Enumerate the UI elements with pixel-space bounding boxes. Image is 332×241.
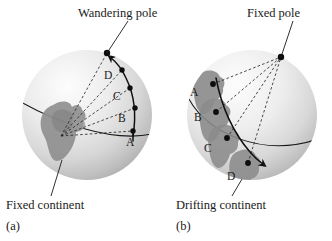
polar-wander-figure: A B C D Wandering pole Fixed continent (… <box>0 0 332 241</box>
point-label-b-C: C <box>204 142 212 154</box>
point-label-a-A: A <box>126 136 135 148</box>
panel-b-caption: (b) <box>176 219 191 233</box>
wandering-pole-label: Wandering pole <box>78 6 158 20</box>
panel-a: A B C D Wandering pole Fixed continent (… <box>6 6 158 233</box>
dot-a <box>130 128 135 133</box>
fixed-pole-leader <box>281 21 293 57</box>
point-label-a-C: C <box>113 90 121 102</box>
point-label-a-B: B <box>118 112 126 124</box>
point-label-b-D: D <box>227 170 235 182</box>
dot-c <box>127 85 132 90</box>
fixed-continent-label: Fixed continent <box>6 198 85 212</box>
panel-b: A B C D Fixed pole Drifting continent (b… <box>176 6 318 233</box>
point-label-b-A: A <box>190 86 199 98</box>
point-label-a-D: D <box>104 69 112 81</box>
dot-b <box>213 109 219 115</box>
figure-canvas: A B C D Wandering pole Fixed continent (… <box>0 0 332 241</box>
wandering-pole-leader <box>107 21 128 53</box>
dot-d <box>119 67 124 72</box>
fixed-pole-label: Fixed pole <box>247 6 301 20</box>
panel-a-caption: (a) <box>6 219 20 233</box>
dot-b <box>132 105 137 110</box>
drifting-continent-label: Drifting continent <box>176 198 266 212</box>
dot-c <box>224 135 230 141</box>
dot-a <box>210 81 216 87</box>
dot-d <box>245 160 251 166</box>
point-label-b-B: B <box>194 111 202 123</box>
globe-a <box>22 50 152 180</box>
